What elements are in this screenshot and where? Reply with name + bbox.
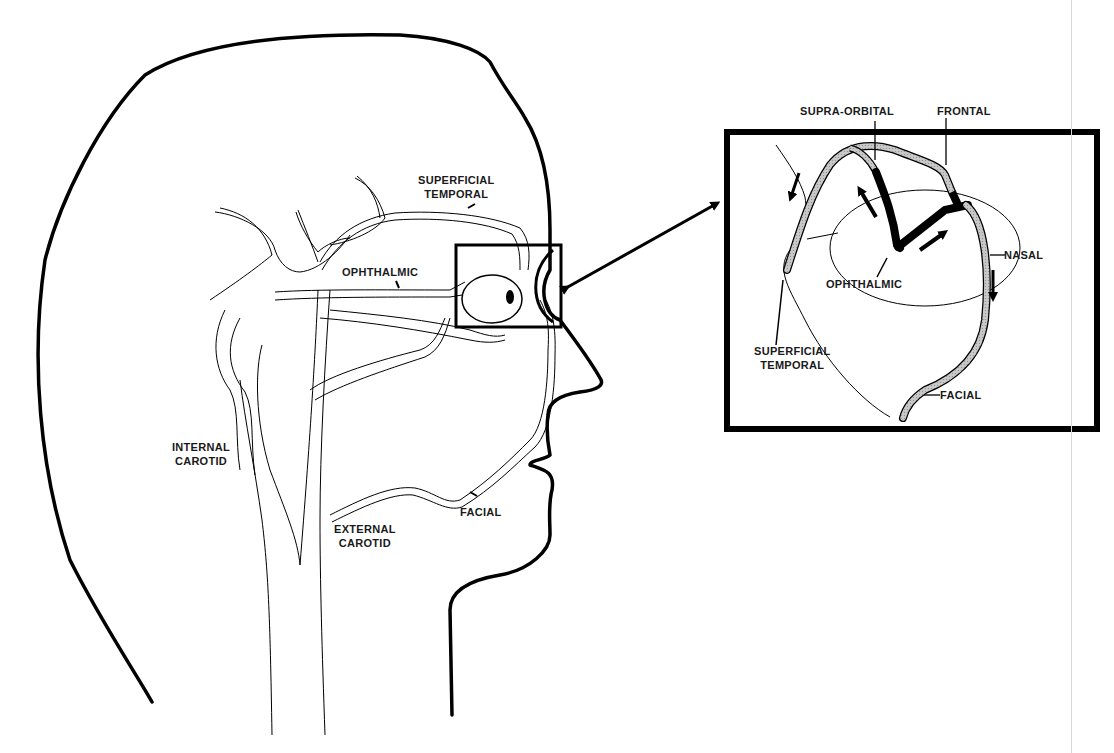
zoom-connector-arrow [566, 204, 716, 288]
label-ophthalmic: OPHTHALMIC [342, 265, 418, 279]
inset-label-ophthalmic: OPHTHALMIC [826, 277, 902, 291]
label-facial: FACIAL [460, 505, 502, 519]
inset-label-supra-orbital: SUPRA-ORBITAL [800, 104, 894, 118]
label-line: TEMPORAL [754, 358, 831, 372]
inset-label-frontal: FRONTAL [937, 104, 991, 118]
label-line: SUPERFICIAL [418, 173, 495, 187]
label-line: CAROTID [172, 454, 230, 468]
label-external-carotid: EXTERNAL CAROTID [334, 522, 396, 550]
page-edge-line [1071, 0, 1072, 753]
pupil [506, 290, 514, 304]
inset-label-facial: FACIAL [940, 388, 982, 402]
label-line: SUPERFICIAL [754, 344, 831, 358]
label-line: TEMPORAL [418, 187, 495, 201]
label-line: CAROTID [334, 536, 396, 550]
vessels-main [210, 176, 555, 735]
label-superficial-temporal: SUPERFICIAL TEMPORAL [418, 173, 495, 201]
inset-label-superficial-temporal: SUPERFICIAL TEMPORAL [754, 344, 831, 372]
label-line: INTERNAL [172, 440, 230, 454]
label-internal-carotid: INTERNAL CAROTID [172, 440, 230, 468]
head-outline [38, 35, 601, 715]
inset-label-nasal: NASAL [1004, 248, 1043, 262]
label-line: EXTERNAL [334, 522, 396, 536]
